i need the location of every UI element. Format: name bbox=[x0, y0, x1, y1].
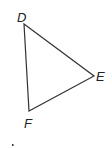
vertex-label-f: F bbox=[24, 116, 33, 131]
triangle-diagram: D E F bbox=[0, 0, 112, 148]
stray-mark bbox=[12, 144, 14, 146]
vertex-label-e: E bbox=[96, 69, 105, 84]
vertex-label-d: D bbox=[17, 10, 26, 25]
triangle-def bbox=[24, 24, 94, 111]
